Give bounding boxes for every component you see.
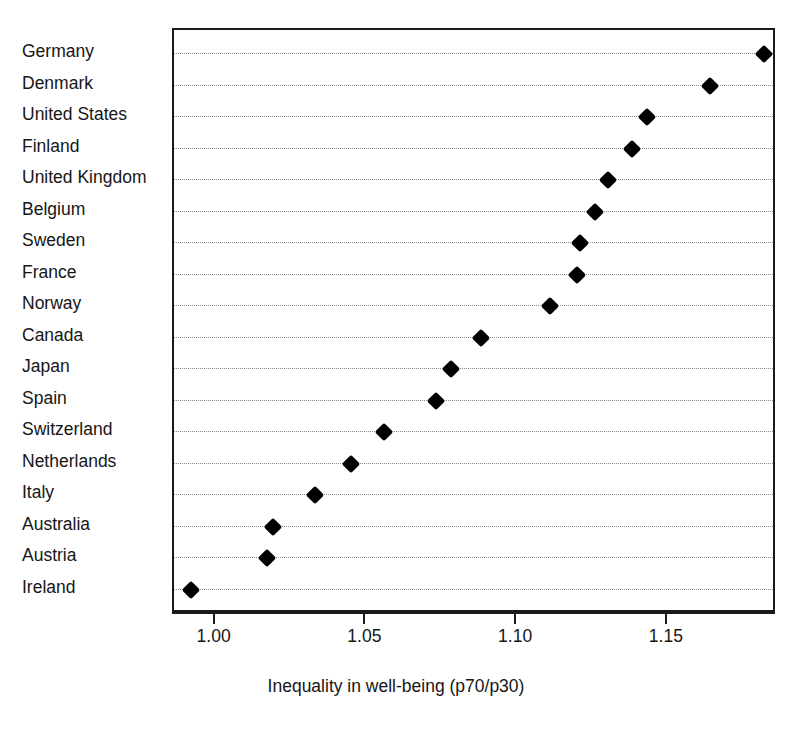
category-label: Norway — [0, 296, 164, 314]
data-point-marker — [258, 549, 276, 567]
data-point-marker — [442, 360, 460, 378]
gridline — [174, 305, 773, 307]
category-label: Netherlands — [0, 453, 164, 471]
data-point-marker — [598, 171, 616, 189]
category-label: Finland — [0, 138, 164, 156]
category-label: Ireland — [0, 579, 164, 597]
x-axis-title: Inequality in well-being (p70/p30) — [0, 678, 792, 696]
gridline — [174, 368, 773, 370]
gridline — [174, 494, 773, 496]
gridline — [174, 148, 773, 150]
x-axis-tick-label: 1.05 — [347, 628, 381, 646]
gridline — [174, 274, 773, 276]
category-label: Switzerland — [0, 421, 164, 439]
data-point-marker — [375, 423, 393, 441]
gridline — [174, 431, 773, 433]
x-axis-tick-label: 1.00 — [197, 628, 231, 646]
data-point-marker — [472, 329, 490, 347]
data-point-marker — [701, 77, 719, 95]
x-axis-tick — [213, 612, 215, 624]
dot-plot-figure: GermanyDenmarkUnited StatesFinlandUnited… — [0, 0, 792, 735]
data-point-marker — [426, 392, 444, 410]
gridline — [174, 463, 773, 465]
gridline — [174, 53, 773, 55]
data-point-marker — [755, 45, 773, 63]
data-point-marker — [182, 581, 200, 599]
gridline — [174, 589, 773, 591]
data-point-marker — [541, 297, 559, 315]
category-axis-labels: GermanyDenmarkUnited StatesFinlandUnited… — [0, 28, 168, 612]
category-label: Spain — [0, 390, 164, 408]
category-label: Austria — [0, 547, 164, 565]
data-point-marker — [638, 108, 656, 126]
category-label: Germany — [0, 44, 164, 62]
gridline — [174, 85, 773, 87]
data-point-marker — [622, 140, 640, 158]
data-point-marker — [342, 455, 360, 473]
data-point-marker — [586, 203, 604, 221]
category-label: United States — [0, 107, 164, 125]
x-axis-tick — [514, 612, 516, 624]
category-label: Italy — [0, 484, 164, 502]
data-point-marker — [306, 486, 324, 504]
gridline — [174, 116, 773, 118]
gridline — [174, 242, 773, 244]
x-axis-tick-label: 1.10 — [498, 628, 532, 646]
x-axis-tick — [363, 612, 365, 624]
category-label: United Kingdom — [0, 170, 164, 188]
data-point-marker — [571, 234, 589, 252]
gridline — [174, 179, 773, 181]
data-point-marker — [568, 266, 586, 284]
category-label: Denmark — [0, 75, 164, 93]
category-label: France — [0, 264, 164, 282]
gridline — [174, 400, 773, 402]
x-axis-line — [172, 612, 775, 614]
category-label: Canada — [0, 327, 164, 345]
category-label: Japan — [0, 358, 164, 376]
x-axis-tick-label: 1.15 — [649, 628, 683, 646]
x-axis-tick — [665, 612, 667, 624]
category-label: Australia — [0, 516, 164, 534]
category-label: Sweden — [0, 233, 164, 251]
plot-area — [172, 28, 775, 612]
data-point-marker — [264, 518, 282, 536]
gridline — [174, 211, 773, 213]
category-label: Belgium — [0, 201, 164, 219]
